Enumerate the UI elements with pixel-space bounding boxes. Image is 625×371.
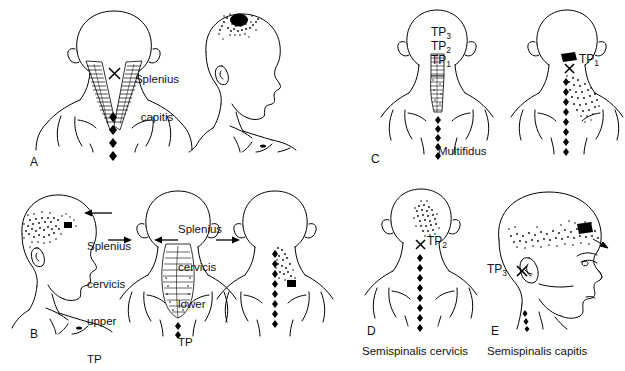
panel-c: TP3 TP2 TP1 TP1 C Multifidus: [313, 0, 625, 186]
panel-e-tp3-label: TP3: [487, 262, 507, 278]
lower-tp-pain-spot: [287, 280, 296, 287]
panel-e-tp-sub: 3: [502, 268, 507, 278]
nipple-mark: [260, 144, 266, 147]
panel-e-letter: E: [491, 324, 499, 338]
panel-d: TP2 D Semispinalis cervicis: [313, 182, 473, 371]
panel-b-lower-tp-label: Splenius cervicis lower TP: [178, 198, 222, 371]
panel-e-lateral-view: [481, 184, 625, 329]
panel-d-tp-sub: 2: [442, 240, 447, 250]
panel-a-muscle-label: Splenius capitis: [115, 48, 199, 148]
panel-c-tp1-sub: 1: [446, 59, 451, 69]
panel-b-upper-label-line1: Splenius: [87, 240, 131, 253]
panel-a-lateral-view: [186, 4, 306, 152]
panel-c-tp1-right-sub: 1: [594, 58, 599, 68]
panel-b: Splenius cervicis upper TP Splenius cerv…: [0, 182, 313, 371]
panel-b-lower-label-line4: TP: [178, 336, 222, 349]
panel-b-arrow-lower-tp-left: [152, 234, 178, 246]
panel-d-tp-text: TP: [427, 234, 442, 248]
spine-dot-line: [272, 250, 278, 328]
panel-b-upper-label-line3: upper: [87, 315, 131, 328]
suboccipital-pain-spot: [561, 52, 577, 62]
panel-a: Splenius capitis A: [0, 0, 313, 186]
panel-c-tp2-text: TP: [431, 39, 446, 53]
trigger-point-x-marker: [565, 64, 574, 73]
panel-a-muscle-label-line2: capitis: [115, 111, 199, 124]
panel-c-pain-view: [503, 6, 623, 154]
panel-b-lower-label-line3: lower: [178, 298, 222, 311]
panel-e: TP3 E Semispinalis capitis: [473, 182, 625, 371]
panel-c-tp1-label: TP1: [431, 53, 451, 69]
panel-c-letter: C: [371, 152, 380, 166]
panel-c-tp1-text: TP: [431, 53, 446, 67]
panel-a-letter: A: [30, 155, 38, 169]
vertex-pain-spot: [230, 14, 248, 27]
tp1-referred-pain-stipple: [566, 75, 600, 123]
spine-dot-line: [563, 78, 569, 156]
panel-b-referred-pain-stipple: [23, 211, 77, 249]
panel-c-tp1-right-label: TP1: [579, 52, 599, 68]
panel-b-upper-label-line2: cervicis: [87, 278, 131, 291]
panel-b-upper-tp-label: Splenius cervicis upper TP: [87, 215, 131, 371]
panel-c-tp3-text: TP: [431, 25, 446, 39]
figure-canvas: Splenius capitis A: [0, 0, 625, 371]
panel-d-posterior-view: [357, 186, 477, 326]
nipple-mark: [76, 326, 82, 329]
panel-b-lower-label-line2: cervicis: [178, 261, 222, 274]
panel-c-caption: Multifidus: [438, 145, 487, 157]
spine-dot-line: [523, 310, 530, 332]
spine-dot-line: [417, 254, 423, 332]
panel-a-muscle-label-line1: Splenius: [115, 73, 199, 86]
panel-c-tp1-right-text: TP: [579, 52, 594, 66]
neck-angle-referred-pain-stipple: [275, 247, 296, 281]
panel-e-caption: Semispinalis capitis: [487, 345, 587, 357]
panel-e-tp-text: TP: [487, 262, 502, 276]
panel-b-upper-label-line4: TP: [87, 353, 131, 366]
panel-d-caption: Semispinalis cervicis: [362, 345, 468, 357]
panel-b-posterior-pain-view: [215, 186, 325, 336]
panel-d-tp2-label: TP2: [427, 234, 447, 250]
panel-d-letter: D: [367, 324, 376, 338]
panel-b-letter: B: [30, 327, 38, 341]
panel-b-lower-label-line1: Splenius: [178, 223, 222, 236]
temporal-pain-spot: [577, 222, 593, 234]
occipital-referred-pain-stipple: [413, 200, 440, 237]
orbital-pain-spot: [64, 222, 72, 228]
trigger-point-x-marker: [416, 240, 425, 249]
